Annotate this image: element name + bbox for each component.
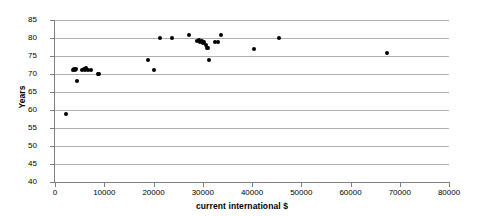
x-axis-tick-label: 20000 <box>142 189 164 197</box>
y-axis-tick <box>50 74 55 75</box>
x-axis-tick-label: 40000 <box>241 189 263 197</box>
y-axis-tick-label: 85 <box>28 16 37 24</box>
x-axis-tick-label: 80000 <box>438 189 460 197</box>
y-axis-tick <box>50 38 55 39</box>
y-axis-tick <box>50 146 55 147</box>
y-axis-tick-label: 80 <box>28 34 37 42</box>
x-axis-tick <box>252 183 253 187</box>
gridline-horizontal <box>55 92 449 93</box>
gridline-horizontal <box>55 128 449 129</box>
y-axis-tick-label: 45 <box>28 160 37 168</box>
gridline-horizontal <box>55 74 449 75</box>
y-axis-tick <box>50 128 55 129</box>
gridline-horizontal <box>55 56 449 57</box>
x-axis-tick <box>400 183 401 187</box>
y-axis-tick-label: 65 <box>28 88 37 96</box>
data-point <box>146 58 150 62</box>
y-axis-tick <box>50 20 55 21</box>
gridline-horizontal <box>55 146 449 147</box>
scatter-chart: 40455055606570758085 0100002000030000400… <box>0 0 484 216</box>
gridline-horizontal <box>55 110 449 111</box>
plot-area <box>55 20 449 182</box>
y-axis-tick <box>50 110 55 111</box>
y-axis-tick-label: 40 <box>28 178 37 186</box>
y-axis-line <box>54 20 55 183</box>
x-axis-title: current international $ <box>0 201 484 211</box>
y-axis-tick <box>50 92 55 93</box>
x-axis-tick-label: 60000 <box>339 189 361 197</box>
gridline-horizontal <box>55 164 449 165</box>
data-point <box>75 79 79 83</box>
data-point <box>207 58 211 62</box>
y-axis-tick-label: 60 <box>28 106 37 114</box>
gridline-horizontal <box>55 38 449 39</box>
data-point <box>216 40 220 44</box>
x-axis-tick-label: 30000 <box>192 189 214 197</box>
x-axis-tick <box>351 183 352 187</box>
y-axis-tick-label: 70 <box>28 70 37 78</box>
x-axis-tick <box>154 183 155 187</box>
x-axis-tick-label: 70000 <box>389 189 411 197</box>
x-axis-tick-label: 10000 <box>93 189 115 197</box>
x-axis-tick <box>449 183 450 187</box>
data-point <box>152 68 156 72</box>
x-axis-tick-label: 0 <box>53 189 57 197</box>
y-axis-tick-label: 50 <box>28 142 37 150</box>
y-axis-tick <box>50 56 55 57</box>
data-point <box>252 47 256 51</box>
x-axis-tick-label: 50000 <box>290 189 312 197</box>
x-axis-tick <box>55 183 56 187</box>
y-axis-tick-label: 75 <box>28 52 37 60</box>
y-axis-tick-label: 55 <box>28 124 37 132</box>
gridline-horizontal <box>55 20 449 21</box>
x-axis-tick <box>301 183 302 187</box>
x-axis-tick <box>104 183 105 187</box>
data-point <box>64 112 68 116</box>
x-axis-tick <box>203 183 204 187</box>
y-axis-tick <box>50 164 55 165</box>
y-axis-title: Years <box>17 67 27 127</box>
